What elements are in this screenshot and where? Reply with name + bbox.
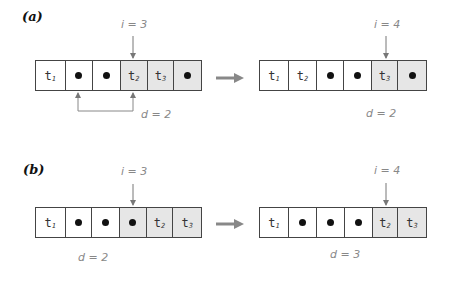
transition-arrow-icon [216,219,244,229]
transition-arrow-icon [216,73,244,83]
distance-bracket-icon [78,93,133,111]
connector-overlay [0,0,452,282]
